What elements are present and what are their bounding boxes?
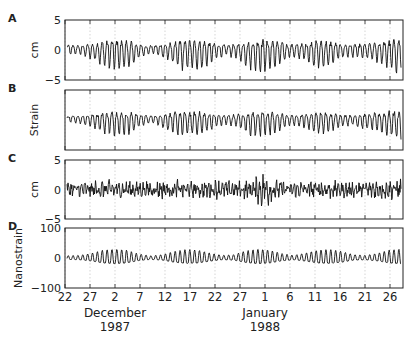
figure: A50−5cmBStrainC50−5cmD1000−100Nanostrain… bbox=[0, 0, 419, 344]
month-label-december: December bbox=[84, 306, 146, 320]
y-axis-label: cm bbox=[28, 42, 41, 59]
data-line bbox=[67, 249, 401, 263]
x-tick-label: 6 bbox=[286, 290, 293, 304]
data-line bbox=[67, 111, 401, 140]
panel-label: B bbox=[8, 82, 16, 95]
x-tick-label: 11 bbox=[308, 290, 323, 304]
x-tick-label: 7 bbox=[136, 290, 143, 304]
y-axis-label: cm bbox=[28, 181, 41, 198]
y-tick-label: −5 bbox=[45, 74, 61, 87]
x-tick-label: 21 bbox=[358, 290, 373, 304]
y-tick-label: 0 bbox=[54, 44, 61, 57]
x-tick-label: 17 bbox=[183, 290, 198, 304]
x-tick-label: 27 bbox=[83, 290, 98, 304]
data-line bbox=[67, 39, 401, 73]
x-tick-label: 12 bbox=[158, 290, 173, 304]
year-label-1987: 1987 bbox=[100, 320, 131, 334]
year-label-1988: 1988 bbox=[250, 320, 281, 334]
panel-b: BStrain bbox=[8, 82, 403, 150]
x-tick-label: 16 bbox=[333, 290, 348, 304]
month-label-january: January bbox=[241, 306, 288, 320]
y-tick-label: 100 bbox=[40, 222, 61, 235]
y-tick-label: 0 bbox=[54, 184, 61, 197]
panel-d: D1000−100Nanostrain bbox=[8, 220, 403, 295]
x-tick-label: 22 bbox=[208, 290, 223, 304]
y-axis-label: Strain bbox=[28, 104, 41, 137]
y-tick-label: −100 bbox=[31, 282, 61, 295]
x-tick-label: 26 bbox=[383, 290, 398, 304]
x-tick-label: 2 bbox=[111, 290, 118, 304]
y-tick-label: 5 bbox=[54, 14, 61, 27]
panel-a: A50−5cm bbox=[8, 12, 403, 87]
y-tick-label: 5 bbox=[54, 154, 61, 167]
x-tick-label: 1 bbox=[261, 290, 268, 304]
y-tick-label: 0 bbox=[54, 252, 61, 265]
panel-label: A bbox=[8, 12, 17, 25]
panel-label: C bbox=[8, 152, 16, 165]
panel-c: C50−5cm bbox=[8, 152, 403, 226]
data-line bbox=[67, 174, 401, 206]
x-tick-label: 22 bbox=[58, 290, 73, 304]
y-axis-label: Nanostrain bbox=[12, 228, 25, 288]
x-tick-label: 27 bbox=[233, 290, 248, 304]
